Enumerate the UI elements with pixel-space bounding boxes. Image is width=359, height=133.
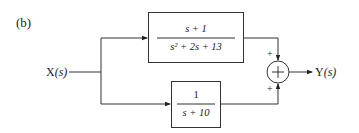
top-input-sign: +: [267, 49, 273, 59]
top-block-numerator: s + 1: [149, 24, 243, 35]
figure-label: (b): [16, 16, 31, 29]
top-block-denominator: s² + 2s + 13: [149, 42, 243, 53]
input-label: X(s): [46, 66, 67, 78]
bottom-input-sign: +: [267, 84, 273, 94]
bottom-block-numerator: 1: [172, 90, 220, 101]
bottom-block-denominator: s + 10: [172, 108, 220, 119]
output-label: Y(s): [315, 66, 336, 78]
